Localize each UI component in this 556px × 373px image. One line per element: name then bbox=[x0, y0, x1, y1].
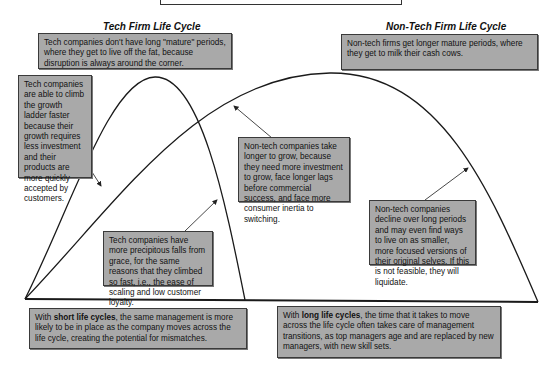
baseline-axis bbox=[25, 299, 538, 302]
tech-decline-note: Tech companies have more precipitous fal… bbox=[103, 231, 213, 286]
nontech-growth-note: Non-tech companies take longer to grow, … bbox=[238, 137, 350, 202]
arrow-tech-decline bbox=[185, 200, 217, 231]
tech-title: Tech Firm Life Cycle bbox=[103, 21, 200, 32]
nontech-mature-note: Non-tech firms get longer mature periods… bbox=[341, 34, 538, 70]
nontech-title: Non-Tech Firm Life Cycle bbox=[386, 21, 506, 32]
arrow-tech-growth bbox=[92, 172, 101, 186]
nontech-decline-note: Non-tech companies decline over long per… bbox=[369, 200, 476, 265]
short-life-cycle-emphasis: short life cycles bbox=[54, 313, 116, 322]
tech-growth-note: Tech companies are able to climb the gro… bbox=[18, 75, 92, 178]
long-life-cycle-emphasis: long life cycles bbox=[302, 311, 361, 320]
arrow-nontech-decline bbox=[425, 168, 468, 200]
long-life-cycle-note: With long life cycles, the time that it … bbox=[277, 306, 501, 358]
tech-mature-note: Tech companies don't have long "mature" … bbox=[38, 33, 232, 69]
arrow-nontech-growth bbox=[234, 106, 272, 138]
short-life-cycle-note: With short life cycles, the same managem… bbox=[29, 308, 247, 349]
